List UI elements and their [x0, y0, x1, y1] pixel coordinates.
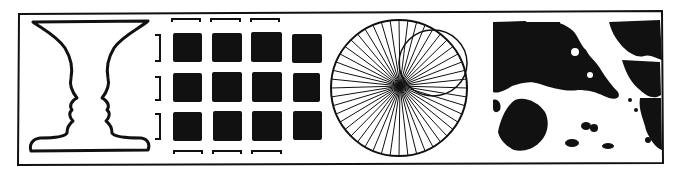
radial-circle-panel [331, 20, 467, 156]
rubin-vase-panel [30, 21, 148, 151]
hidden-figure-panel [493, 20, 662, 151]
grouping-grid-panel [155, 19, 322, 154]
rubin-vase-outline [30, 21, 148, 151]
figure-canvas [0, 0, 680, 173]
illusion-figure: Strip of four ambiguous / perceptual ill… [0, 0, 680, 173]
